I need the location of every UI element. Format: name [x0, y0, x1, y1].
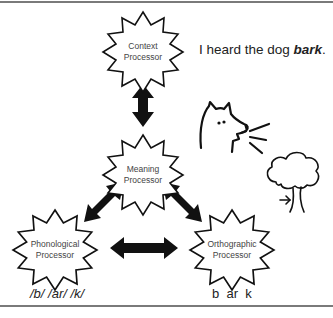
phonological-label-line1: Phonological	[31, 239, 80, 249]
context-label-line2: Processor	[124, 52, 162, 62]
dog-barking-icon	[200, 102, 269, 153]
dog-eye-icon	[222, 120, 225, 123]
sentence-prefix: I heard the dog	[199, 42, 294, 57]
orthographic-label-line1: Orthographic	[207, 239, 256, 249]
orthographic-label-line2: Processor	[213, 250, 251, 260]
phonological-processor-label: Phonological Processor	[20, 239, 90, 261]
orthographic-caption: b ar k	[212, 286, 252, 301]
context-label-line1: Context	[128, 41, 157, 51]
meaning-label-line2: Processor	[124, 175, 162, 185]
sentence-suffix: .	[322, 42, 326, 57]
phonological-caption: /b/ /ar/ /k/	[30, 286, 84, 301]
context-sentence: I heard the dog bark.	[199, 42, 326, 57]
orthographic-processor-label: Orthographic Processor	[197, 239, 267, 261]
tree-icon	[267, 153, 318, 213]
sentence-emphasis-word: bark	[294, 42, 323, 57]
phonological-label-line2: Processor	[36, 250, 74, 260]
meaning-processor-label: Meaning Processor	[108, 164, 178, 186]
context-processor-label: Context Processor	[108, 41, 178, 63]
dog-eye-icon	[217, 121, 220, 124]
arrow-phonological-orthographic	[110, 237, 178, 259]
meaning-label-line1: Meaning	[127, 164, 160, 174]
